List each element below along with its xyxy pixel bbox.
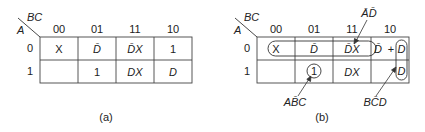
label-bcbar-d: BC̄D bbox=[363, 96, 386, 108]
col-header-00: 00 bbox=[53, 23, 65, 35]
row-header-1: 1 bbox=[27, 65, 33, 77]
col-header-01: 01 bbox=[91, 23, 103, 35]
kmap-a: BC A 00 01 11 10 0 1 X D̄ D̄X 1 1 DX D (… bbox=[16, 11, 192, 123]
cell-0-00: X bbox=[272, 43, 280, 55]
kmap-b: BC A 00 01 11 10 0 1 X D̄ D̄X D̄ + D bbox=[233, 7, 409, 123]
cell-0-10-right: D bbox=[398, 43, 406, 55]
cell-1-11: DX bbox=[127, 66, 143, 78]
cell-0-10-left: D̄ bbox=[374, 43, 382, 55]
cell-1-10: D bbox=[169, 66, 177, 78]
row-header-0: 0 bbox=[27, 42, 33, 54]
col-variable-label: BC bbox=[244, 11, 259, 23]
col-header-10: 10 bbox=[384, 23, 396, 35]
row-header-0: 0 bbox=[244, 42, 250, 54]
cell-0-10-plus: + bbox=[388, 43, 394, 55]
grouping-loop-abar-dbar bbox=[268, 41, 376, 56]
row-variable-label: A bbox=[16, 24, 24, 36]
cell-0-01: D̄ bbox=[310, 43, 318, 55]
cell-0-11: D̄X bbox=[127, 43, 143, 55]
row-header-1: 1 bbox=[244, 65, 250, 77]
cell-1-10: D bbox=[398, 65, 406, 77]
cell-0-00: X bbox=[55, 43, 63, 55]
col-header-10: 10 bbox=[167, 23, 179, 35]
col-header-00: 00 bbox=[270, 23, 282, 35]
row-variable-label: A bbox=[233, 24, 241, 36]
col-header-01: 01 bbox=[308, 23, 320, 35]
caption-a: (a) bbox=[99, 111, 112, 123]
label-abar-c: AB̄C bbox=[283, 96, 307, 108]
grid bbox=[257, 37, 409, 83]
caption-b: (b) bbox=[315, 111, 328, 123]
cell-1-11: DX bbox=[344, 66, 360, 78]
cell-1-01: 1 bbox=[311, 65, 317, 77]
cell-1-01: 1 bbox=[94, 66, 100, 78]
cell-0-11: D̄X bbox=[344, 43, 360, 55]
cell-0-10: 1 bbox=[170, 43, 176, 55]
cell-0-01: D̄ bbox=[93, 43, 101, 55]
col-header-11: 11 bbox=[346, 23, 357, 35]
label-abar-dbar: ĀD̄ bbox=[360, 7, 376, 19]
karnaugh-maps-figure: BC A 00 01 11 10 0 1 X D̄ D̄X 1 1 DX D (… bbox=[0, 0, 425, 132]
col-header-11: 11 bbox=[129, 23, 140, 35]
col-variable-label: BC bbox=[27, 11, 42, 23]
